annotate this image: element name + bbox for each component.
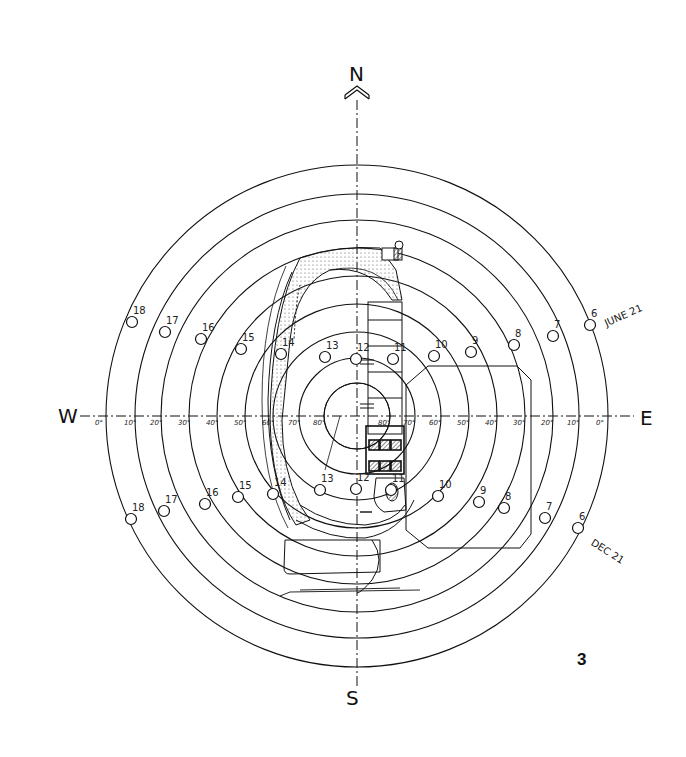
sun-position-marker	[351, 354, 362, 365]
north-arrow-icon	[345, 86, 369, 99]
hour-label: 12	[357, 472, 370, 483]
altitude-label-west: 20°	[150, 419, 162, 427]
south-label: S	[346, 688, 359, 708]
sun-position-marker	[585, 320, 596, 331]
sun-position-marker	[315, 485, 326, 496]
hour-label: 18	[132, 502, 145, 513]
altitude-label-east: 50°	[457, 419, 469, 427]
compass-axes	[80, 100, 634, 688]
hour-label: 9	[480, 485, 486, 496]
hour-label: 6	[591, 308, 597, 319]
sun-position-marker	[127, 317, 138, 328]
altitude-label-west: 30°	[178, 419, 190, 427]
sun-position-marker	[499, 503, 510, 514]
hour-label: 11	[394, 342, 407, 353]
altitude-labels: 0°0°10°10°20°20°30°30°40°40°50°50°60°60°…	[95, 419, 604, 427]
altitude-label-east: 80°	[378, 419, 390, 427]
hour-label: 13	[321, 473, 334, 484]
hour-label: 11	[392, 473, 405, 484]
hour-label: 15	[239, 480, 252, 491]
hour-label: 17	[165, 494, 178, 505]
sun-position-marker	[196, 334, 207, 345]
east-label: E	[640, 408, 653, 428]
sun-position-marker	[276, 349, 287, 360]
hour-label: 13	[326, 340, 339, 351]
altitude-label-west: 40°	[206, 419, 218, 427]
hour-label: 8	[505, 491, 511, 502]
hour-label: 16	[206, 487, 219, 498]
altitude-label-east: 10°	[567, 419, 579, 427]
sun-position-marker	[509, 340, 520, 351]
sun-position-marker	[540, 513, 551, 524]
sun-position-marker	[160, 327, 171, 338]
altitude-label-east: 40°	[485, 419, 497, 427]
altitude-label-east: 20°	[541, 419, 553, 427]
altitude-label-west: 70°	[288, 419, 300, 427]
june-sun-positions	[127, 317, 596, 365]
altitude-label-east: 70°	[403, 419, 415, 427]
sun-position-marker	[433, 491, 444, 502]
hour-label: 15	[242, 332, 255, 343]
altitude-label-west: 0°	[95, 419, 103, 427]
hour-label: 17	[166, 315, 179, 326]
sun-position-marker	[268, 489, 279, 500]
sun-position-marker	[386, 485, 397, 496]
hour-label: 7	[546, 501, 552, 512]
hour-label: 14	[282, 337, 295, 348]
hour-label: 6	[579, 511, 585, 522]
altitude-label-east: 60°	[429, 419, 441, 427]
sun-position-marker	[320, 352, 331, 363]
diagram-canvas: 1817161514131211109876181716151413121110…	[0, 0, 686, 757]
sun-position-marker	[159, 506, 170, 517]
west-label: W	[58, 406, 78, 426]
sun-position-marker	[548, 331, 559, 342]
hour-label: 7	[554, 319, 560, 330]
sun-position-marker	[233, 492, 244, 503]
sun-path-diagram: 1817161514131211109876181716151413121110…	[0, 0, 686, 757]
sun-position-marker	[573, 523, 584, 534]
sun-position-marker	[126, 514, 137, 525]
hour-label: 18	[133, 305, 146, 316]
hour-label: 10	[439, 479, 452, 490]
hour-label: 8	[515, 328, 521, 339]
sun-position-marker	[351, 484, 362, 495]
altitude-label-west: 60°	[262, 419, 274, 427]
hour-label: 14	[274, 477, 287, 488]
north-label: N	[349, 64, 364, 84]
sun-position-marker	[236, 344, 247, 355]
sun-position-marker	[474, 497, 485, 508]
hour-label: 16	[202, 322, 215, 333]
hour-label: 10	[435, 339, 448, 350]
hour-label: 12	[357, 342, 370, 353]
altitude-label-west: 80°	[313, 419, 325, 427]
altitude-label-east: 30°	[513, 419, 525, 427]
altitude-label-east: 0°	[596, 419, 604, 427]
sun-position-marker	[388, 354, 399, 365]
sun-position-marker	[466, 347, 477, 358]
hour-label: 9	[472, 335, 478, 346]
figure-number: 3	[577, 650, 586, 670]
altitude-label-west: 50°	[234, 419, 246, 427]
altitude-label-west: 10°	[124, 419, 136, 427]
sun-position-marker	[429, 351, 440, 362]
sun-position-marker	[200, 499, 211, 510]
